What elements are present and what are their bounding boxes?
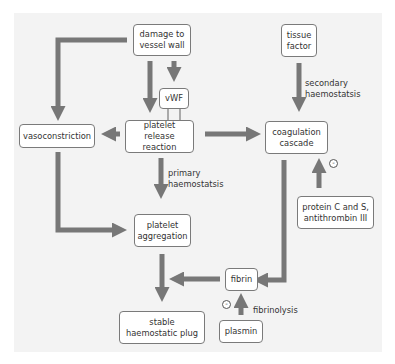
label-fibrinolysis: fibrinolysis [253, 305, 298, 316]
arrow-coagulation-to-fibrin [262, 160, 284, 280]
node-vasoconstriction: vasoconstriction [19, 124, 95, 148]
node-protein-c-s-antithrombin: protein C and S, antithrombin III [297, 196, 374, 229]
node-plasmin: plasmin [219, 320, 263, 343]
node-vwf: vWF [159, 88, 189, 109]
node-tissue-factor: tissue factor [281, 24, 317, 57]
label-primary-haemostasis: primary haemostatsis [168, 168, 228, 190]
node-platelet-release-reaction: platelet release reaction [125, 120, 194, 153]
label-secondary-haemostasis: secondary haemostatsis [305, 78, 365, 100]
node-platelet-aggregation: platelet aggregation [134, 214, 191, 247]
inhibition-icon-fibrin: - [222, 300, 231, 309]
inhibition-icon-coagulation: - [329, 159, 338, 168]
arrow-damage-to-vasoconstriction [58, 40, 127, 112]
arrow-vasoconstriction-to-aggregation [58, 152, 118, 230]
node-coagulation-cascade: coagulation cascade [265, 121, 328, 154]
node-stable-haemostatic-plug: stable haemostatic plug [119, 311, 205, 344]
node-fibrin: fibrin [225, 268, 258, 291]
node-damage-to-vessel-wall: damage to vessel wall [133, 24, 191, 56]
